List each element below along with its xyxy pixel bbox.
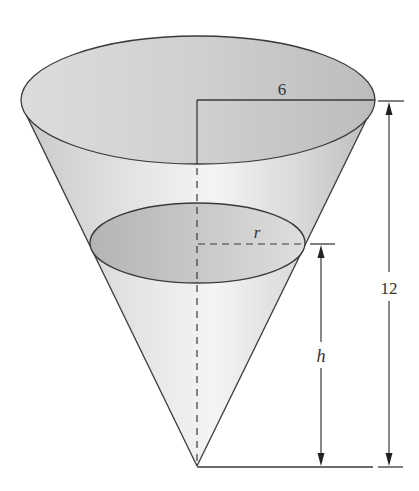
total-height-arrow-up-icon	[386, 102, 393, 115]
total-height-label: 12	[381, 279, 398, 298]
liquid-radius-label: r	[254, 223, 261, 242]
total-height-arrow-down-icon	[386, 453, 393, 466]
liquid-height-label: h	[317, 346, 326, 366]
liquid-height-arrow-up-icon	[318, 245, 325, 258]
liquid-surface-ellipse	[90, 203, 305, 283]
liquid-height-arrow-down-icon	[318, 453, 325, 466]
top-radius-label: 6	[278, 80, 287, 99]
cone-diagram: 6 r h 12	[0, 0, 419, 491]
